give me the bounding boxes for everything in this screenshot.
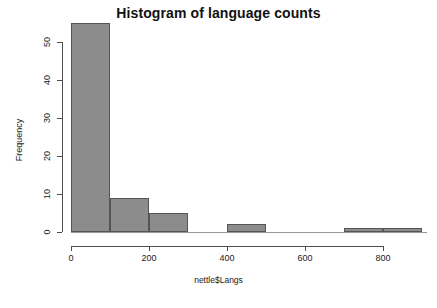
x-axis-tick-label: 800 (363, 253, 403, 263)
histogram-bar (149, 213, 188, 232)
x-axis-tick (305, 246, 306, 251)
y-axis-tick (57, 232, 62, 233)
plot-panel (71, 30, 383, 232)
y-axis-tick-label: 10 (40, 184, 54, 204)
x-axis-tick-label: 200 (129, 253, 169, 263)
x-axis-tick-label: 400 (207, 253, 247, 263)
histogram-bar (110, 198, 149, 232)
chart-title: Histogram of language counts (0, 5, 437, 21)
y-axis-line (62, 42, 63, 232)
y-axis-tick (57, 194, 62, 195)
y-axis-tick-label-text: 10 (42, 189, 52, 199)
y-axis-tick-label: 30 (40, 108, 54, 128)
x-axis-tick (71, 246, 72, 251)
y-axis-tick-label-text: 30 (42, 113, 52, 123)
y-axis-tick (57, 80, 62, 81)
y-axis-title-label: Frequency (14, 119, 24, 162)
plot-baseline (71, 232, 427, 233)
histogram-bar (71, 23, 110, 232)
y-axis-tick (57, 118, 62, 119)
y-axis-tick-label: 20 (40, 146, 54, 166)
histogram-plot: Histogram of language counts Frequency 0… (0, 0, 437, 308)
y-axis-tick-label: 0 (40, 222, 54, 242)
x-axis-tick (383, 246, 384, 251)
histogram-bar (227, 224, 266, 232)
y-axis-tick-label: 40 (40, 70, 54, 90)
y-axis-tick-label: 50 (40, 32, 54, 52)
x-axis-tick (149, 246, 150, 251)
y-axis-tick-label-text: 20 (42, 151, 52, 161)
y-axis-tick (57, 42, 62, 43)
x-axis-tick (227, 246, 228, 251)
y-axis-tick (57, 156, 62, 157)
x-axis-tick-label: 0 (51, 253, 91, 263)
y-axis-title: Frequency (11, 100, 27, 180)
x-axis-tick-label: 600 (285, 253, 325, 263)
x-axis-title: nettle$Langs (0, 275, 437, 285)
y-axis-tick-label-text: 40 (42, 75, 52, 85)
y-axis-tick-label-text: 0 (42, 229, 52, 234)
y-axis-tick-label-text: 50 (42, 37, 52, 47)
